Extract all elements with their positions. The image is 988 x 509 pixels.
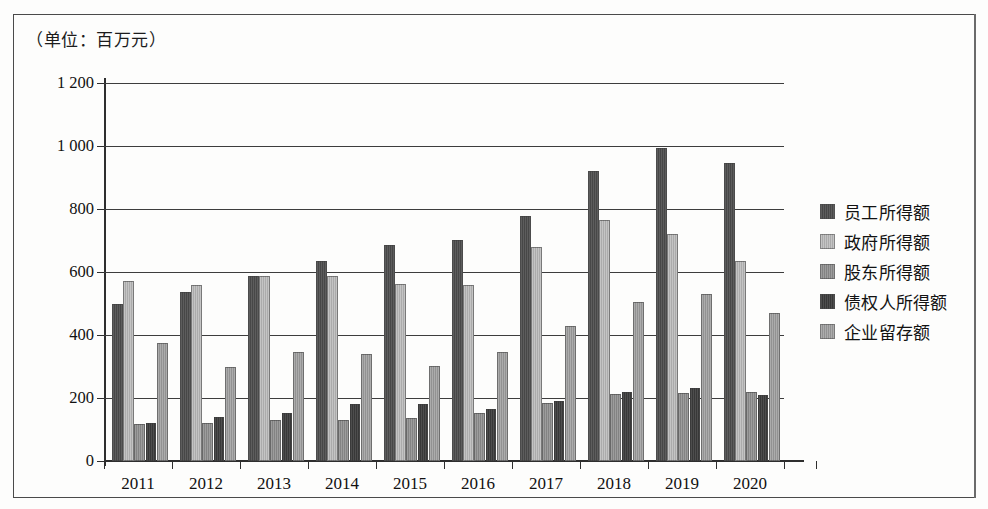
x-axis-tick-label: 2011 xyxy=(121,474,154,494)
bar xyxy=(112,304,123,462)
figure-border-right xyxy=(974,14,976,498)
bar xyxy=(746,392,757,461)
x-axis-tick xyxy=(240,461,241,469)
bar xyxy=(418,404,429,461)
bar xyxy=(123,281,134,461)
bar xyxy=(758,395,769,461)
bar xyxy=(588,171,599,461)
units-caption: （单位：百万元） xyxy=(26,26,166,51)
bar xyxy=(384,245,395,461)
x-axis-tick-label: 2017 xyxy=(529,474,563,494)
legend-item[interactable]: 企业留存额 xyxy=(820,316,948,346)
bar xyxy=(667,234,678,461)
x-axis-tick xyxy=(512,461,513,469)
bar xyxy=(282,413,293,461)
bar xyxy=(395,284,406,461)
bar xyxy=(202,423,213,461)
x-axis-tick-label: 2018 xyxy=(597,474,631,494)
y-axis-tick-label: 600 xyxy=(69,262,94,282)
bar xyxy=(542,403,553,461)
x-axis-tick xyxy=(716,461,717,469)
legend-swatch-icon xyxy=(820,294,835,309)
bar-group-2011 xyxy=(112,83,168,461)
x-axis-tick-label: 2020 xyxy=(733,474,767,494)
y-axis-tick-label: 800 xyxy=(69,199,94,219)
x-axis-tick-label: 2016 xyxy=(461,474,495,494)
legend-swatch-icon xyxy=(820,204,835,219)
chart-legend: 员工所得额政府所得额股东所得额债权人所得额企业留存额 xyxy=(820,196,948,346)
x-axis-tick xyxy=(816,461,817,469)
bar xyxy=(338,420,349,461)
y-axis-tick-label: 400 xyxy=(69,325,94,345)
y-axis-tick xyxy=(97,83,104,84)
y-axis-tick-label: 0 xyxy=(86,451,94,471)
x-axis-ticks xyxy=(104,461,804,470)
bar xyxy=(146,423,157,461)
x-axis-tick-label: 2013 xyxy=(257,474,291,494)
legend-swatch-icon xyxy=(820,234,835,249)
bar xyxy=(520,216,531,461)
y-axis-tick xyxy=(97,461,104,462)
x-axis-tick-label: 2015 xyxy=(393,474,427,494)
bar-group-2018 xyxy=(588,83,644,461)
bar xyxy=(554,401,565,461)
x-axis-tick xyxy=(376,461,377,469)
x-axis-tick xyxy=(172,461,173,469)
legend-item[interactable]: 员工所得额 xyxy=(820,196,948,226)
y-axis-tick xyxy=(97,335,104,336)
bar-group-2020 xyxy=(724,83,780,461)
bar xyxy=(293,352,304,461)
legend-label: 债权人所得额 xyxy=(844,289,948,314)
y-axis-tick-label: 1 000 xyxy=(57,136,94,156)
legend-swatch-icon xyxy=(820,324,835,339)
bar xyxy=(565,326,576,461)
bar xyxy=(214,417,225,461)
legend-label: 股东所得额 xyxy=(844,259,931,284)
legend-item[interactable]: 政府所得额 xyxy=(820,226,948,256)
bar xyxy=(180,292,191,461)
x-axis-tick xyxy=(784,461,785,469)
legend-item[interactable]: 债权人所得额 xyxy=(820,286,948,316)
bar xyxy=(735,261,746,461)
bar xyxy=(678,393,689,461)
bar xyxy=(690,388,701,461)
bar xyxy=(769,313,780,461)
bar-group-2013 xyxy=(248,83,304,461)
bar-group-2015 xyxy=(384,83,440,461)
bar xyxy=(656,148,667,461)
x-axis-tick-label: 2014 xyxy=(325,474,359,494)
bar xyxy=(486,409,497,461)
bar xyxy=(531,247,542,461)
bar xyxy=(361,354,372,461)
y-axis-tick-label: 200 xyxy=(69,388,94,408)
legend-label: 政府所得额 xyxy=(844,229,931,254)
bar xyxy=(316,261,327,461)
bar xyxy=(463,285,474,461)
bar xyxy=(134,424,145,461)
y-axis-tick-label: 1 200 xyxy=(57,73,94,93)
bar xyxy=(622,392,633,461)
bar xyxy=(701,294,712,461)
bar xyxy=(270,420,281,461)
bar xyxy=(350,404,361,461)
bar xyxy=(248,276,259,461)
x-axis-tick xyxy=(104,461,105,469)
bar xyxy=(406,418,417,461)
bar xyxy=(452,240,463,461)
bar xyxy=(327,276,338,461)
bar xyxy=(429,366,440,461)
x-axis-tick xyxy=(648,461,649,469)
legend-label: 员工所得额 xyxy=(844,199,931,224)
bar-group-2012 xyxy=(180,83,236,461)
legend-swatch-icon xyxy=(820,264,835,279)
legend-item[interactable]: 股东所得额 xyxy=(820,256,948,286)
plot-area xyxy=(104,83,784,461)
x-axis-tick xyxy=(308,461,309,469)
x-axis-tick-label: 2012 xyxy=(189,474,223,494)
bar-group-2016 xyxy=(452,83,508,461)
x-axis-tick xyxy=(580,461,581,469)
y-axis-tick xyxy=(97,398,104,399)
bar-group-2019 xyxy=(656,83,712,461)
bar xyxy=(474,413,485,461)
bar-group-2017 xyxy=(520,83,576,461)
